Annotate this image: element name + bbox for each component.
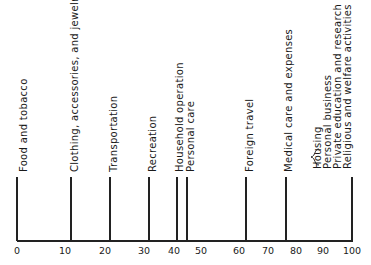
label-food: Food and tobacco bbox=[18, 78, 29, 172]
tick-80: 80 bbox=[290, 245, 302, 256]
tick-70: 70 bbox=[262, 245, 274, 256]
label-household: Household operation bbox=[174, 62, 185, 172]
boundary-food bbox=[16, 177, 18, 241]
tick-90: 90 bbox=[317, 245, 329, 256]
tick-0: 0 bbox=[14, 245, 20, 256]
boundary-personal-care bbox=[186, 177, 188, 241]
boundary-household bbox=[176, 177, 178, 241]
label-personal-care: Personal care bbox=[185, 101, 196, 172]
boundary-medical bbox=[285, 177, 287, 241]
tick-60: 60 bbox=[233, 245, 245, 256]
boundary-clothing bbox=[70, 177, 72, 241]
tick-10: 10 bbox=[59, 245, 71, 256]
x-axis-baseline bbox=[17, 240, 353, 242]
boundary-recreation bbox=[148, 177, 150, 241]
tick-100: 100 bbox=[343, 245, 361, 256]
tick-40: 40 bbox=[168, 245, 180, 256]
label-clothing: Clothing, accessories, and jewelry bbox=[69, 0, 80, 172]
tick-20: 20 bbox=[99, 245, 111, 256]
cumulative-strip-chart: Food and tobacco Clothing, accessories, … bbox=[0, 0, 371, 265]
boundary-transportation bbox=[109, 177, 111, 241]
tick-30: 30 bbox=[138, 245, 150, 256]
boundary-end bbox=[351, 177, 353, 241]
tick-50: 50 bbox=[195, 245, 207, 256]
label-medical: Medical care and expenses bbox=[283, 29, 294, 172]
label-foreign-travel: Foreign travel bbox=[244, 99, 255, 172]
boundary-foreign-travel bbox=[245, 177, 247, 241]
label-religious-welfare: Religious and welfare activities bbox=[342, 4, 353, 169]
label-transportation: Transportation bbox=[108, 96, 119, 172]
label-recreation: Recreation bbox=[147, 116, 158, 172]
